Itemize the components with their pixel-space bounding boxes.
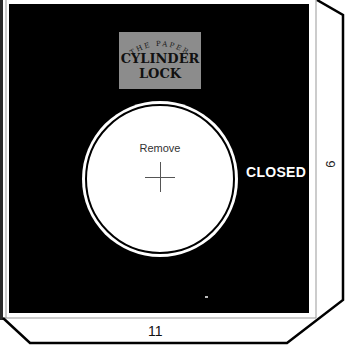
right-tab-number: 9 bbox=[322, 156, 338, 172]
title-label: THE PAPER CYLINDER LOCK bbox=[119, 32, 201, 89]
remove-label: Remove bbox=[87, 142, 233, 154]
crosshair-icon bbox=[160, 162, 161, 192]
closed-status: CLOSED bbox=[246, 164, 306, 180]
bottom-tab-number: 11 bbox=[148, 323, 163, 339]
title-line-2: LOCK bbox=[119, 67, 201, 81]
speck-mark bbox=[205, 296, 208, 298]
title-line-1: CYLINDER bbox=[119, 52, 201, 66]
dial-cutout: Remove bbox=[85, 104, 235, 254]
cylinder-dial[interactable]: Remove bbox=[82, 101, 238, 257]
